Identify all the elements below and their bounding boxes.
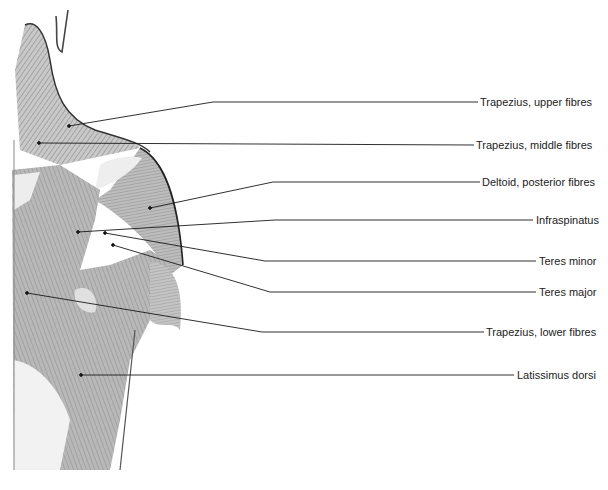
leader-dot-infraspinatus: [77, 231, 80, 234]
label-teres-minor: Teres minor: [539, 255, 596, 268]
label-trapezius-lower: Trapezius, lower fibres: [486, 326, 596, 339]
label-teres-major: Teres major: [539, 286, 596, 299]
label-latissimus-dorsi: Latissimus dorsi: [517, 369, 596, 382]
label-infraspinatus: Infraspinatus: [536, 214, 599, 227]
leader-dot-trapezius-middle: [38, 142, 41, 145]
leader-dot-latissimus-dorsi: [80, 374, 83, 377]
leader-line-trapezius-upper: [69, 102, 478, 126]
label-trapezius-upper: Trapezius, upper fibres: [480, 96, 592, 109]
leader-dot-teres-major: [112, 244, 115, 247]
leader-line-deltoid-posterior: [150, 182, 480, 208]
leader-dot-trapezius-upper: [68, 125, 71, 128]
leader-dot-deltoid-posterior: [149, 207, 152, 210]
leader-dot-trapezius-lower: [26, 292, 29, 295]
muscle-trapezius-upper-art: [15, 10, 150, 165]
label-trapezius-middle: Trapezius, middle fibres: [476, 139, 592, 152]
label-deltoid-posterior: Deltoid, posterior fibres: [482, 176, 595, 189]
leader-dot-teres-minor: [104, 232, 107, 235]
anatomy-illustration: [0, 0, 608, 490]
